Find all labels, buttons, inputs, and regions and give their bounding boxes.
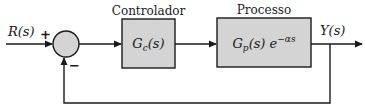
controller-title: Controlador (112, 4, 186, 18)
output-label: Y(s) (320, 23, 345, 38)
summing-junction (53, 31, 79, 57)
plus-sign: + (40, 27, 51, 42)
input-label: R(s) (7, 24, 35, 39)
block-diagram: R(s) + − Controlador Gc(s) Processo Gp(s… (0, 0, 365, 109)
process-title: Processo (237, 3, 291, 17)
controller-transfer-function: Gc(s) (132, 36, 164, 53)
minus-sign: − (69, 58, 80, 73)
